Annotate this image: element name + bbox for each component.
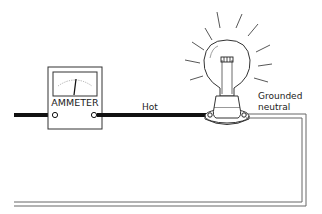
ammeter-terminal-right [91,112,96,117]
neutral-label-line2: neutral [258,102,290,112]
neutral-label-line1: Grounded [258,91,302,101]
socket-screw-left [208,113,212,117]
ammeter-terminal-left [52,112,57,117]
hot-wire-label: Hot [142,102,158,112]
socket-screw-right [242,113,246,117]
ammeter-label: AMMETER [51,97,99,108]
ammeter: AMMETER [48,67,102,129]
light-bulb [204,40,250,96]
circuit-diagram: AMMETER Hot [0,0,322,214]
bulb-socket [205,96,249,125]
